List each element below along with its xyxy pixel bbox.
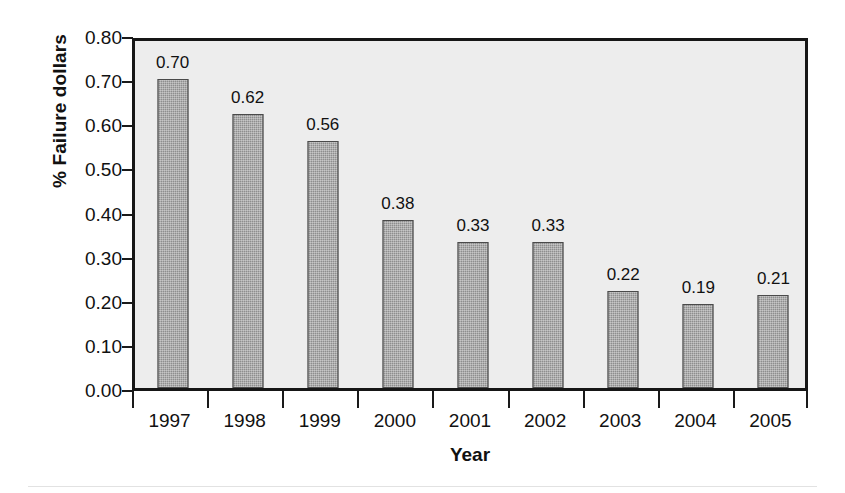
bar-slot: 0.19 [661,41,736,388]
bar-value-label: 0.19 [682,278,715,298]
bar-slot: 0.21 [736,41,811,388]
bar-value-label: 0.62 [231,88,264,108]
y-tick-label: 0.50 [50,159,122,181]
x-tick-mark [508,391,510,408]
bar-value-label: 0.38 [381,194,414,214]
bar-slot: 0.22 [586,41,661,388]
bar[interactable] [758,295,789,388]
y-axis-ticks: 0.800.700.600.500.400.300.200.100.00 [42,0,122,493]
bar-value-label: 0.21 [757,269,790,289]
x-tick-label: 2000 [355,410,435,432]
bar-slot: 0.70 [135,41,210,388]
x-tick-label: 2005 [730,410,810,432]
x-tick-mark [357,391,359,408]
bar-slot: 0.33 [511,41,586,388]
x-tick-mark [282,391,284,408]
bar[interactable] [232,114,263,388]
y-tick-label: 0.00 [50,380,122,402]
bar[interactable] [382,220,413,388]
bar[interactable] [307,141,338,388]
bar-slot: 0.62 [210,41,285,388]
x-tick-label: 2002 [505,410,585,432]
x-tick-label: 1997 [130,410,210,432]
bar-value-label: 0.56 [306,115,339,135]
bar-slot: 0.38 [360,41,435,388]
bars-container: 0.700.620.560.380.330.330.220.190.21 [135,41,805,388]
bar[interactable] [533,242,564,388]
bar-value-label: 0.33 [532,216,565,236]
y-tick-label: 0.20 [50,292,122,314]
y-tick-label: 0.30 [50,248,122,270]
plot-area: 0.700.620.560.380.330.330.220.190.21 [132,38,808,391]
bar[interactable] [683,304,714,388]
bar[interactable] [457,242,488,388]
x-tick-mark [583,391,585,408]
bar-value-label: 0.33 [456,216,489,236]
x-tick-label: 1998 [205,410,285,432]
x-tick-mark [806,391,808,408]
bar[interactable] [157,79,188,388]
bar-slot: 0.33 [435,41,510,388]
y-tick-label: 0.10 [50,336,122,358]
x-tick-label: 2003 [580,410,660,432]
x-tick-mark [432,391,434,408]
x-tick-label: 2004 [655,410,735,432]
x-axis-title: Year [132,444,808,466]
x-tick-mark [658,391,660,408]
y-tick-label: 0.70 [50,71,122,93]
y-tick-label: 0.80 [50,27,122,49]
scan-artifact-line [28,486,817,487]
bar[interactable] [608,291,639,388]
x-tick-mark [132,391,134,408]
bar-value-label: 0.22 [607,265,640,285]
x-tick-mark [733,391,735,408]
x-tick-mark [207,391,209,408]
bar-chart-figure: % Failure dollars 0.800.700.600.500.400.… [0,0,845,493]
y-tick-label: 0.60 [50,115,122,137]
x-tick-label: 1999 [280,410,360,432]
x-tick-label: 2001 [430,410,510,432]
x-axis: 199719981999200020012002200320042005 [132,391,808,451]
y-tick-label: 0.40 [50,204,122,226]
bar-slot: 0.56 [285,41,360,388]
bar-value-label: 0.70 [156,53,189,73]
